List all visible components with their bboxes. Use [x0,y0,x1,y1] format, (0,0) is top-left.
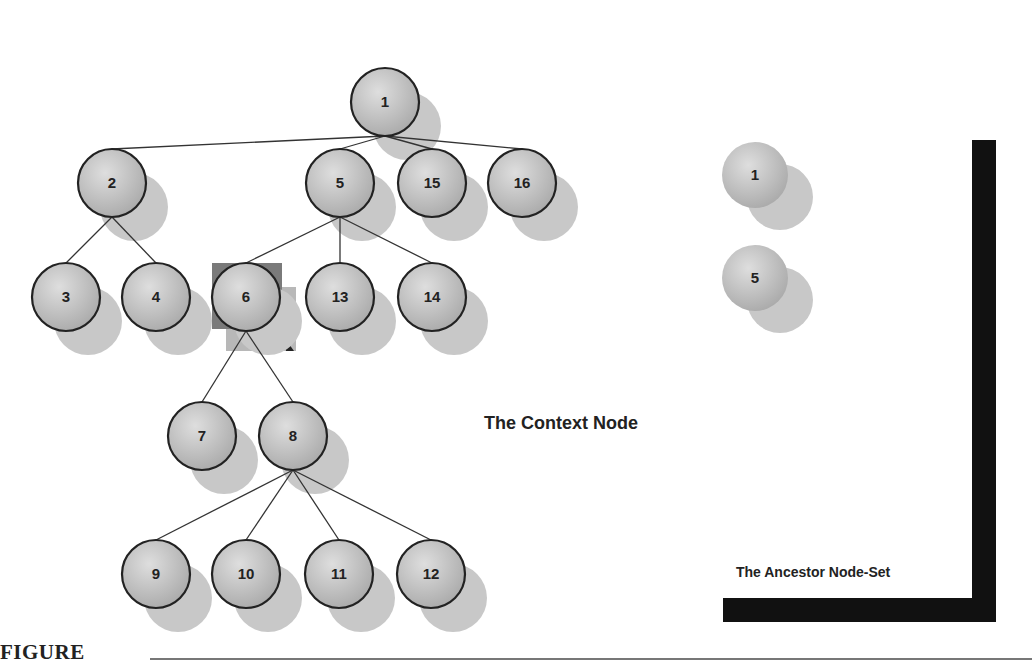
figure-label: FIGURE [0,640,85,665]
node-label: 11 [331,565,347,582]
node-label: 2 [108,174,116,191]
tree-node-7: 7 [168,402,236,470]
node-label: 3 [62,288,70,305]
node-label: 9 [152,565,160,582]
tree-edge [246,217,340,263]
tree-node-14: 14 [398,263,466,331]
node-label: 12 [423,565,440,582]
node-label: 5 [336,174,344,191]
tree-edge [202,331,246,402]
ancestor-node-set-label: The Ancestor Node-Set [736,564,890,580]
tree-node-11: 11 [305,540,373,608]
tree-node-10: 10 [212,540,280,608]
tree-node-3: 3 [32,263,100,331]
figure-rule [150,658,1032,660]
node-label: 10 [238,565,255,582]
tree-edge [246,470,293,540]
node-label: 14 [424,288,441,305]
node-label: 16 [514,174,531,191]
tree-edge [66,217,112,263]
node-label: 7 [198,427,206,444]
node-label: 13 [332,288,349,305]
tree-node-13: 13 [306,263,374,331]
ancestor-node-5: 5 [722,245,813,333]
tree-node-12: 12 [397,540,465,608]
tree-node-15: 15 [398,149,466,217]
node-label: 15 [424,174,441,191]
ancestor-panel-bar-vertical [972,140,996,622]
tree-node-9: 9 [122,540,190,608]
ancestor-panel-bar-horizontal [723,598,996,622]
tree-node-1: 1 [351,68,419,136]
tree-node-5: 5 [306,149,374,217]
node-label: 1 [751,166,759,183]
ancestor-set-nodes: 15 [722,142,813,333]
ancestor-node-1: 1 [722,142,813,230]
tree-node-16: 16 [488,149,556,217]
tree-node-8: 8 [259,402,327,470]
tree-edge [293,470,431,540]
node-label: 1 [381,93,389,110]
tree-node-4: 4 [122,263,190,331]
node-label: 4 [152,288,161,305]
tree-node-6: 6 [212,263,280,331]
node-label: 8 [289,427,297,444]
node-label: 5 [751,269,759,286]
tree-edge [112,136,385,149]
context-node-label: The Context Node [484,413,638,434]
node-label: 6 [242,288,250,305]
tree-node-2: 2 [78,149,146,217]
